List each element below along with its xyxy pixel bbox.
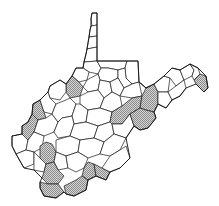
county[interactable] xyxy=(48,80,66,100)
county-map xyxy=(0,0,219,206)
eastern-counties xyxy=(130,64,208,130)
county-shaded[interactable] xyxy=(64,176,88,196)
county[interactable] xyxy=(70,122,98,140)
northern-counties xyxy=(66,61,146,98)
